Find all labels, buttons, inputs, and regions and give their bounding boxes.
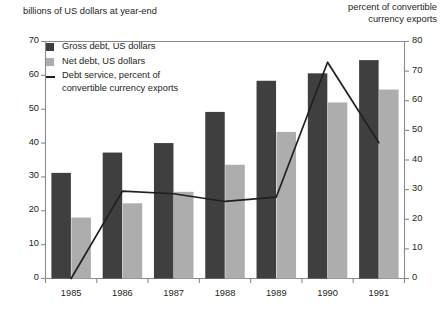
y-axis-tick-label-right: 50 xyxy=(412,124,434,134)
gross-debt-swatch-icon xyxy=(46,40,59,51)
bar-gross-debt xyxy=(154,143,174,278)
y-axis-tick-label-right: 60 xyxy=(412,94,434,104)
bar-net-debt xyxy=(71,218,91,279)
bar-gross-debt xyxy=(205,112,225,279)
legend-item-gross-debt: Gross debt, US dollars xyxy=(46,40,178,52)
y-axis-tick-label-right: 40 xyxy=(412,154,434,164)
debt-service-line-icon xyxy=(46,69,59,77)
x-axis-tick-label: 1988 xyxy=(202,288,248,298)
x-axis-tick-label: 1989 xyxy=(253,288,299,298)
legend-item-debt-service: Debt service, percent of convertible cur… xyxy=(46,69,178,93)
x-axis-tick-label: 1991 xyxy=(356,288,402,298)
legend-item-net-debt: Net debt, US dollars xyxy=(46,55,178,67)
bar-net-debt xyxy=(379,90,399,279)
bar-net-debt xyxy=(174,192,194,279)
x-axis-tick-label: 1985 xyxy=(48,288,94,298)
legend-label-gross-debt: Gross debt, US dollars xyxy=(59,40,156,52)
y-axis-tick-label-left: 0 xyxy=(17,272,39,282)
bar-net-debt xyxy=(123,203,142,278)
y-axis-tick-label-right: 20 xyxy=(412,213,434,223)
bar-gross-debt xyxy=(103,153,123,279)
legend-label-debt-service: Debt service, percent of convertible cur… xyxy=(59,69,178,93)
x-axis-tick-label: 1986 xyxy=(99,288,145,298)
y-axis-tick-label-left: 30 xyxy=(17,170,39,180)
y-axis-tick-label-right: 0 xyxy=(412,272,434,282)
y-axis-tick-label-left: 40 xyxy=(17,137,39,147)
y-axis-tick-label-left: 20 xyxy=(17,204,39,214)
y-axis-tick-label-left: 70 xyxy=(17,35,39,45)
bar-gross-debt xyxy=(359,60,379,278)
y-axis-tick-label-right: 70 xyxy=(412,65,434,75)
chart-legend: Gross debt, US dollars Net debt, US doll… xyxy=(46,40,178,96)
bar-gross-debt xyxy=(51,173,71,279)
legend-label-net-debt: Net debt, US dollars xyxy=(59,55,145,67)
y-axis-tick-label-right: 10 xyxy=(412,242,434,252)
y-axis-tick-label-right: 80 xyxy=(412,35,434,45)
net-debt-swatch-icon xyxy=(46,55,59,66)
bar-net-debt xyxy=(328,102,348,278)
y-axis-tick-label-right: 30 xyxy=(412,183,434,193)
bar-gross-debt xyxy=(257,81,277,279)
y-axis-tick-label-left: 50 xyxy=(17,103,39,113)
x-axis-tick-label: 1990 xyxy=(305,288,351,298)
chart-root: billions of US dollars at year-end perce… xyxy=(0,0,445,312)
x-axis-tick-label: 1987 xyxy=(151,288,197,298)
y-axis-tick-label-left: 60 xyxy=(17,69,39,79)
bar-net-debt xyxy=(225,165,245,279)
y-axis-tick-label-left: 10 xyxy=(17,238,39,248)
